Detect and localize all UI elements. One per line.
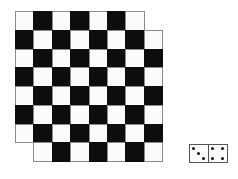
dark-square	[15, 30, 34, 50]
light-square	[107, 30, 126, 50]
dark-square	[125, 67, 145, 87]
dark-square	[52, 67, 71, 87]
pip-icon	[221, 157, 224, 160]
light-square	[52, 124, 71, 143]
light-square	[107, 105, 126, 125]
light-square	[144, 67, 163, 87]
dark-square	[70, 49, 90, 68]
dark-square	[107, 124, 126, 143]
pip-icon	[197, 152, 200, 155]
dark-square	[70, 86, 90, 106]
pip-icon	[192, 147, 195, 150]
dark-square	[70, 124, 90, 143]
dark-square	[33, 86, 53, 106]
light-square	[15, 49, 34, 68]
dark-square	[107, 86, 126, 106]
light-square	[125, 11, 145, 31]
domino	[189, 144, 228, 163]
light-square	[125, 86, 145, 106]
light-square	[33, 142, 53, 162]
light-square	[70, 105, 90, 125]
dark-square	[33, 49, 53, 68]
light-square	[89, 49, 108, 68]
dark-square	[125, 105, 145, 125]
light-square	[70, 67, 90, 87]
dark-square	[15, 67, 34, 87]
light-square	[125, 124, 145, 143]
light-square	[33, 30, 53, 50]
light-square	[89, 11, 108, 31]
pip-icon	[202, 157, 205, 160]
light-square	[70, 142, 90, 162]
dark-square	[89, 105, 108, 125]
light-square	[89, 86, 108, 106]
light-square	[125, 49, 145, 68]
light-square	[107, 142, 126, 162]
light-square	[70, 30, 90, 50]
dark-square	[33, 11, 53, 31]
domino-half-left	[190, 145, 209, 162]
light-square	[144, 142, 163, 162]
light-square	[144, 30, 163, 50]
light-square	[107, 67, 126, 87]
light-square	[33, 67, 53, 87]
light-square	[15, 86, 34, 106]
dark-square	[52, 105, 71, 125]
light-square	[33, 105, 53, 125]
domino-half-right	[209, 145, 227, 162]
dark-square	[52, 30, 71, 50]
dark-square	[107, 49, 126, 68]
light-square	[144, 105, 163, 125]
dark-square	[89, 30, 108, 50]
pip-icon	[221, 147, 224, 150]
dark-square	[144, 86, 163, 106]
light-square	[15, 11, 34, 31]
light-square	[89, 124, 108, 143]
dark-square	[33, 124, 53, 143]
dark-square	[89, 67, 108, 87]
pip-icon	[211, 147, 214, 150]
dark-square	[144, 124, 163, 143]
dark-square	[89, 142, 108, 162]
dark-square	[125, 30, 145, 50]
dark-square	[144, 49, 163, 68]
pip-icon	[211, 157, 214, 160]
dark-square	[15, 105, 34, 125]
light-square	[52, 49, 71, 68]
light-square	[52, 11, 71, 31]
dark-square	[70, 11, 90, 31]
light-square	[15, 124, 34, 143]
dark-square	[125, 142, 145, 162]
dark-square	[52, 142, 71, 162]
light-square	[52, 86, 71, 106]
dark-square	[107, 11, 126, 31]
